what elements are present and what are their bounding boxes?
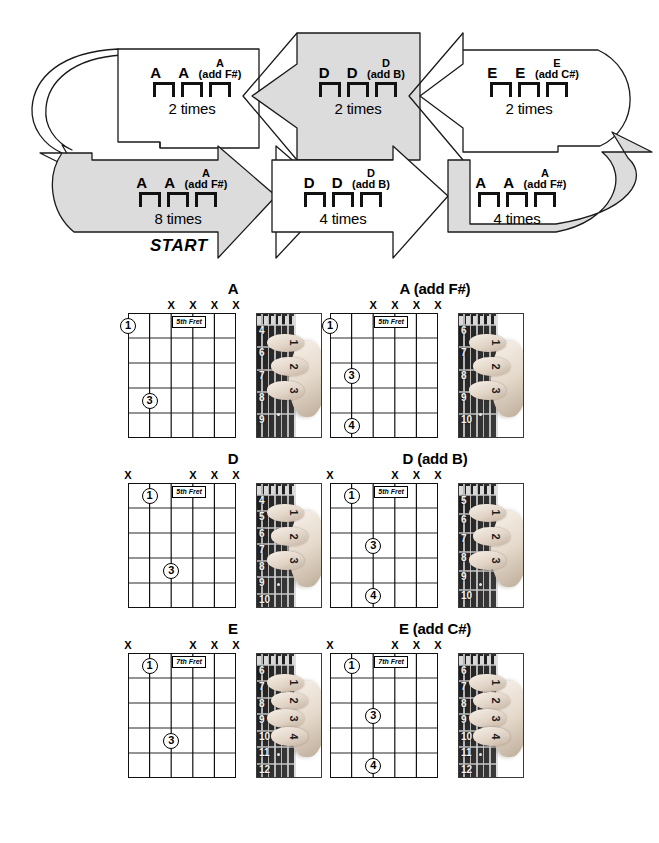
mute-x-icon: X: [211, 470, 218, 481]
photo-finger-number: 2: [490, 364, 501, 370]
fret-number-label: 11: [259, 748, 270, 758]
mute-x-icon: X: [189, 640, 196, 651]
fret-inlay-dot: [277, 583, 280, 586]
fret-number-label: 7: [461, 348, 467, 358]
fret-number-label: 7: [259, 682, 265, 692]
chord-diagram-chord-a: AXXXX5th Fret1346789123: [128, 280, 338, 450]
photo-finger-number: 1: [288, 510, 299, 516]
fret-inlay-dot: [479, 753, 482, 756]
muted-string-markers: XXXX: [330, 640, 438, 653]
fret-number-label: 8: [461, 553, 467, 563]
muted-string-markers: XXXX: [128, 640, 236, 653]
chord-title: A: [128, 280, 338, 297]
finger-position-dot: 1: [344, 488, 360, 504]
mute-x-icon: X: [413, 470, 420, 481]
fret-number-label: 7: [461, 534, 467, 544]
mute-x-icon: X: [232, 470, 239, 481]
fret-position-label: 5th Fret: [172, 486, 206, 498]
mute-x-icon: X: [232, 300, 239, 311]
photo-finger-number: 1: [288, 340, 299, 346]
mute-x-icon: X: [434, 300, 441, 311]
photo-content: 678910123: [459, 314, 523, 437]
muted-string-markers: XXXX: [330, 470, 438, 483]
mute-x-icon: X: [370, 300, 377, 311]
photo-finger-number: 1: [490, 680, 501, 686]
guitar-string: [281, 484, 283, 607]
photo-finger-number: 3: [490, 557, 501, 563]
fret-number-label: 5: [461, 496, 467, 506]
fret-number-label: 9: [259, 578, 265, 588]
muted-string-markers: XXXX: [330, 300, 438, 313]
mute-x-icon: X: [413, 640, 420, 651]
fret-position-label: 5th Fret: [374, 486, 408, 498]
fret-number-label: 8: [461, 699, 467, 709]
fretboard-grid: 5th Fret134: [330, 313, 438, 438]
hand-palm: [491, 511, 524, 587]
fret-number-label: 8: [259, 393, 265, 403]
hand-position-photo: 45678910123: [256, 483, 322, 608]
guitar-string: [274, 484, 276, 607]
finger-position-dot: 3: [365, 538, 381, 554]
chord-title: A (add F#): [330, 280, 540, 297]
hand-position-photo: 5678910123: [458, 483, 524, 608]
fret-number-label: 9: [461, 715, 467, 725]
photo-finger-number: 4: [490, 733, 501, 739]
photo-content: 5678910123: [459, 484, 523, 607]
photo-finger-number: 3: [288, 557, 299, 563]
guitar-string: [281, 314, 283, 437]
finger-position-dot: 1: [142, 658, 158, 674]
fret-inlay-dot: [479, 413, 482, 416]
fretboard-grid: 5th Fret134: [330, 483, 438, 608]
finger-position-dot: 3: [163, 733, 179, 749]
flow-diagram-shapes: [0, 0, 659, 275]
mute-x-icon: X: [326, 470, 333, 481]
guitar-string: [268, 314, 270, 437]
fret-number-label: 10: [259, 595, 270, 605]
chord-title: E: [128, 620, 338, 637]
muted-string-markers: XXXX: [128, 300, 236, 313]
mute-x-icon: X: [434, 640, 441, 651]
mute-x-icon: X: [211, 300, 218, 311]
fretboard-grid: 5th Fret13: [128, 483, 236, 608]
fret-position-label: 7th Fret: [172, 656, 206, 668]
mute-x-icon: X: [189, 300, 196, 311]
mute-x-icon: X: [232, 640, 239, 651]
photo-content: 67891011121234: [459, 654, 523, 777]
photo-finger-number: 2: [288, 534, 299, 540]
finger-position-dot: 3: [344, 368, 360, 384]
mute-x-icon: X: [124, 470, 131, 481]
fret-number-label: 9: [259, 415, 265, 425]
fret-number-label: 6: [259, 666, 265, 676]
chord-diagram-chord-e: EXXXX7th Fret1367891011121234: [128, 620, 338, 790]
hand-position-photo: 46789123: [256, 313, 322, 438]
hand-palm: [491, 341, 524, 417]
fret-number-label: 12: [259, 765, 270, 775]
flow-block-shape-row1-d: [252, 33, 420, 160]
mute-x-icon: X: [326, 640, 333, 651]
fret-number-label: 5: [259, 512, 265, 522]
photo-finger-number: 1: [490, 510, 501, 516]
guitar-string: [274, 314, 276, 437]
chord-title: D (add B): [330, 450, 540, 467]
fret-number-label: 6: [461, 326, 467, 336]
photo-finger-number: 1: [490, 340, 501, 346]
fret-number-label: 12: [461, 765, 472, 775]
mute-x-icon: X: [391, 640, 398, 651]
fretboard-grid: 5th Fret13: [128, 313, 236, 438]
fret-number-label: 6: [461, 515, 467, 525]
photo-finger-number: 2: [490, 534, 501, 540]
fret-position-label: 5th Fret: [374, 316, 408, 328]
start-label: START: [150, 236, 208, 256]
fret-number-label: 10: [461, 415, 472, 425]
fret-number-label: 10: [461, 591, 472, 601]
muted-string-markers: XXXX: [128, 470, 236, 483]
fret-number-label: 7: [259, 545, 265, 555]
photo-finger-number: 2: [288, 364, 299, 370]
fret-number-label: 9: [259, 715, 265, 725]
chord-diagram-chord-e-add-cs: E (add C#)XXXX7th Fret13467891011121234: [330, 620, 540, 790]
fret-number-label: 9: [461, 572, 467, 582]
finger-position-dot: 3: [365, 708, 381, 724]
flow-block-shape-row1-e: [420, 33, 630, 152]
chord-title: D: [128, 450, 338, 467]
fret-number-label: 9: [461, 393, 467, 403]
